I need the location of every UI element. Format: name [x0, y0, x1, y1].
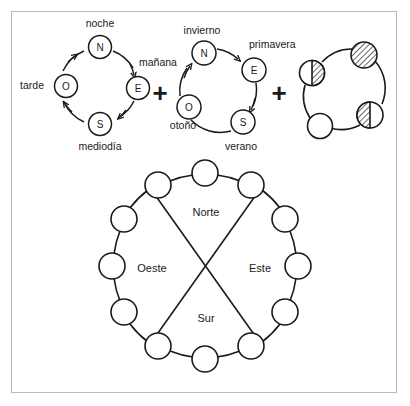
node-o-year-label: O	[185, 102, 193, 113]
moon-phase-cuarto-menguante-shade	[312, 61, 325, 86]
compass-bead	[99, 253, 125, 279]
compass-bead	[238, 172, 264, 198]
plus-sign-2: +	[271, 78, 286, 108]
compass-bead	[285, 253, 311, 279]
arc-o-to-n	[68, 56, 75, 62]
node-e-day-label: E	[135, 83, 142, 94]
diagram-svg: N E S O noche mañana mediodía tarde + N	[0, 0, 410, 406]
arc-s-o-body-year	[191, 120, 231, 132]
label-mediodia: mediodía	[78, 140, 121, 152]
compass-bead	[145, 172, 171, 198]
arc-moon-right	[375, 61, 385, 104]
compass-bead	[192, 160, 218, 186]
diagram-moon-cycle	[300, 42, 386, 139]
compass-label-norte: Norte	[193, 206, 220, 218]
arc-o-n-body	[63, 51, 84, 71]
node-e-year-label: E	[251, 65, 258, 76]
compass-bead	[145, 333, 171, 359]
compass-bead	[111, 206, 137, 232]
compass-label-oeste: Oeste	[137, 262, 166, 274]
compass-bead	[111, 299, 137, 325]
node-s-day-label: S	[97, 119, 104, 130]
arc-moon-left	[304, 85, 310, 118]
label-tarde: tarde	[20, 79, 44, 91]
moon-cycle-nodes	[300, 42, 384, 139]
compass-label-este: Este	[249, 262, 271, 274]
node-s-year-label: S	[240, 117, 247, 128]
day-cycle-nodes: N E S O	[55, 36, 150, 136]
node-n-day-label: N	[96, 42, 103, 53]
arc-moon-bottom	[330, 125, 360, 130]
label-verano: verano	[225, 140, 257, 152]
compass-bead	[192, 346, 218, 372]
label-noche: noche	[86, 17, 115, 29]
compass-label-sur: Sur	[197, 312, 214, 324]
arc-e-s-body	[118, 101, 134, 118]
compass-bead	[272, 299, 298, 325]
arc-s-o-body	[64, 102, 84, 122]
moon-phase-luna-llena	[351, 42, 377, 68]
label-otono: otoño	[170, 119, 196, 131]
label-invierno: invierno	[184, 24, 221, 36]
label-manana: mañana	[139, 56, 177, 68]
compass-rose: Norte Este Sur Oeste	[99, 160, 311, 372]
plus-sign-1: +	[152, 78, 167, 108]
compass-bead	[238, 333, 264, 359]
arc-moon-top-left	[322, 49, 354, 62]
moon-phase-cuarto-creciente-shade	[357, 102, 370, 128]
label-primavera: primavera	[249, 38, 296, 50]
moon-phase-luna-nueva	[308, 114, 333, 139]
compass-bead	[272, 206, 298, 232]
node-n-year-label: N	[200, 48, 207, 59]
node-o-day-label: O	[62, 81, 70, 92]
figure-canvas: N E S O noche mañana mediodía tarde + N	[0, 0, 410, 406]
arc-n-to-e-year	[217, 49, 238, 59]
